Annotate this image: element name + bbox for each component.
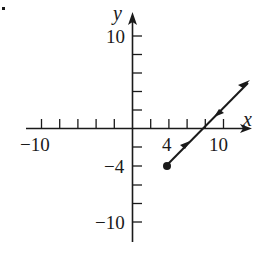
stray-dot	[2, 7, 5, 10]
y-tick-label-neg10: −10	[95, 212, 125, 233]
mid-arrow-up-right-icon	[180, 141, 190, 149]
closed-endpoint	[163, 162, 171, 170]
x-tick-label-4: 4	[162, 134, 172, 155]
x-tick-label-10: 10	[209, 134, 228, 155]
y-tick-label-10: 10	[106, 26, 125, 47]
x-axis-label: x	[242, 108, 252, 130]
y-axis	[128, 12, 142, 242]
coordinate-plane: y x −10 4 10 10 −4 −10	[0, 0, 261, 254]
x-axis	[26, 119, 252, 133]
y-tick-label-neg4: −4	[104, 156, 125, 177]
y-axis-label: y	[111, 2, 122, 25]
x-tick-label-neg10: −10	[20, 134, 50, 155]
ray-series	[163, 80, 250, 170]
